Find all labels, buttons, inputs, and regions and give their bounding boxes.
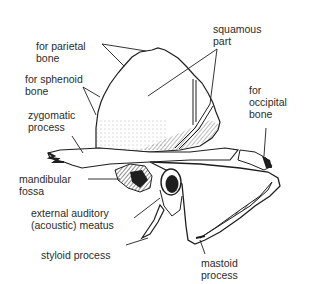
label-external-auditory-meatus: external auditory (acoustic) meatus	[31, 207, 114, 231]
label-for-parietal-bone: for parietal bone	[36, 40, 86, 64]
label-zygomatic-process: zygomatic process	[28, 109, 75, 133]
label-mandibular-fossa: mandibular fossa	[19, 173, 71, 197]
styloid-process-shape	[142, 205, 164, 238]
label-squamous-part: squamous part	[213, 23, 261, 47]
label-mastoid-process: mastoid process	[201, 257, 238, 281]
label-styloid-process: styloid process	[41, 249, 110, 261]
label-for-occipital-bone: for occipital bone	[249, 84, 287, 120]
label-for-sphenoid-bone: for sphenoid bone	[25, 73, 83, 97]
